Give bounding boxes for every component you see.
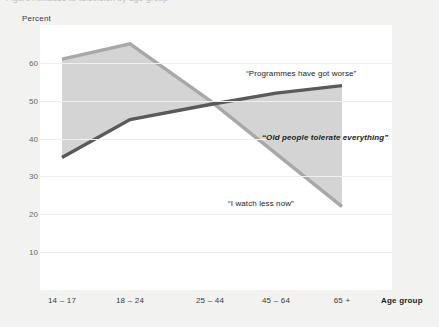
gridline-10 (40, 252, 392, 253)
annotation-old-people-tolerate-everything: “Old people tolerate everything” (262, 133, 388, 142)
gridline-20 (40, 214, 392, 215)
x-tick-65-plus: 65 + (320, 296, 364, 305)
y-tick-40: 40 (14, 135, 38, 144)
x-tick-45-64: 45 – 64 (254, 296, 298, 305)
gridline-60 (40, 63, 392, 64)
x-axis-title: Age group (381, 296, 423, 305)
annotation-i-watch-less-now: “I watch less now” (228, 199, 294, 208)
gridline-50 (40, 101, 392, 102)
figure-caption-text: Figure Attitudes to television by age gr… (0, 0, 439, 3)
y-tick-20: 20 (14, 210, 38, 219)
x-tick-25-44: 25 – 44 (188, 296, 232, 305)
y-axis-label: Percent (22, 14, 51, 23)
x-tick-18-24: 18 – 24 (108, 296, 152, 305)
annotation-programmes-have-got-worse: “Programmes have got worse” (246, 69, 356, 78)
y-tick-10: 10 (14, 248, 38, 257)
figure-caption-sliver: Figure Attitudes to television by age gr… (0, 0, 439, 7)
y-tick-30: 30 (14, 172, 38, 181)
y-tick-50: 50 (14, 97, 38, 106)
figure-container: Figure Attitudes to television by age gr… (0, 0, 439, 327)
gridline-30 (40, 176, 392, 177)
chart-svg (40, 25, 392, 290)
plot-area (40, 25, 392, 290)
x-tick-14-17: 14 – 17 (40, 296, 84, 305)
y-tick-60: 60 (14, 59, 38, 68)
